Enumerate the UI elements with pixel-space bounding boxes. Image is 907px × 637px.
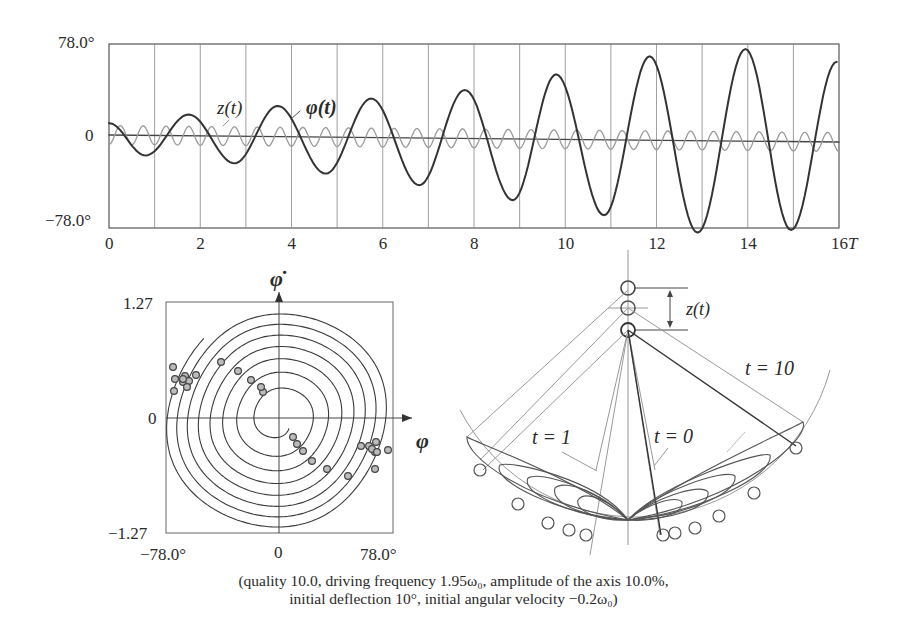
phase-y-zero-label: 0 bbox=[148, 410, 157, 427]
time-x-tick: 10 bbox=[557, 235, 574, 252]
t10-label: t = 10 bbox=[745, 358, 794, 378]
pendulum-diagram bbox=[460, 250, 830, 555]
time-x-tick: 14 bbox=[740, 235, 757, 252]
phase-y-max-label: 1.27 bbox=[123, 295, 153, 312]
time-y-max-label: 78.0° bbox=[58, 34, 95, 51]
time-x-tick: 8 bbox=[470, 235, 479, 252]
phase-x-zero-label: 0 bbox=[274, 544, 283, 561]
t1-label: t = 1 bbox=[532, 427, 571, 447]
time-x-tick: 16T bbox=[831, 235, 857, 252]
time-x-tick: 0 bbox=[105, 235, 114, 252]
caption-line-1: (quality 10.0, driving frequency 1.95ω₀,… bbox=[0, 572, 907, 590]
phase-y-min-label: −1.27 bbox=[108, 525, 147, 542]
pendulum-z-label: z(t) bbox=[686, 300, 710, 318]
time-x-tick: 6 bbox=[379, 235, 388, 252]
time-x-tick: 4 bbox=[288, 235, 297, 252]
time-y-zero-label: 0 bbox=[85, 127, 94, 144]
phase-x-max-label: 78.0° bbox=[360, 546, 397, 563]
time-y-min-label: −78.0° bbox=[45, 212, 91, 229]
time-x-tick: 12 bbox=[649, 235, 666, 252]
phase-plot bbox=[166, 292, 412, 533]
time-x-tick: 2 bbox=[196, 235, 205, 252]
z-curve-label: z(t) bbox=[217, 98, 242, 117]
phase-x-axis-label: φ bbox=[416, 430, 429, 452]
caption-line-2: initial deflection 10°, initial angular … bbox=[0, 590, 907, 608]
phi-curve-label: φ(t) bbox=[306, 97, 337, 117]
t0-label: t = 0 bbox=[654, 426, 693, 446]
phase-y-axis-label: φ̇ bbox=[270, 268, 283, 290]
time-plot bbox=[109, 44, 839, 233]
phase-x-min-label: −78.0° bbox=[140, 546, 186, 563]
